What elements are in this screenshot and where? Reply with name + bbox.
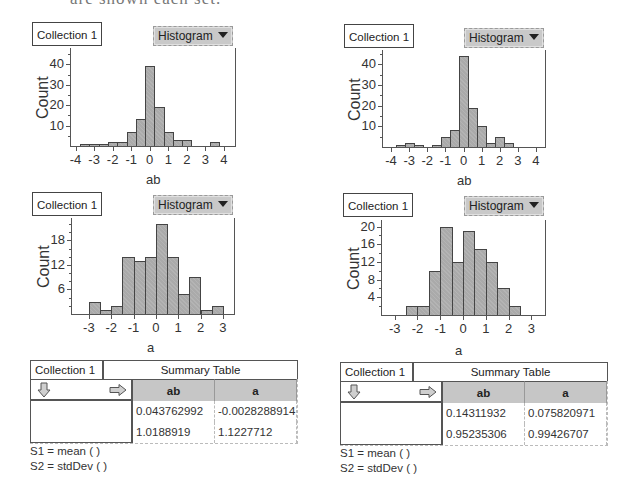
x-tick — [224, 147, 225, 151]
y-tick — [67, 265, 71, 266]
x-tick-label: 0 — [451, 321, 475, 336]
column-header-a[interactable]: a — [525, 381, 607, 403]
x-tick — [187, 147, 188, 151]
histogram-plot[interactable]: 61218-3-2-10123 — [71, 218, 234, 315]
summary-table: Collection 1 Summary Table ab a 0.143119… — [340, 362, 608, 476]
x-axis-title[interactable]: a — [455, 343, 462, 358]
x-tick — [111, 315, 112, 319]
y-tick — [377, 280, 381, 281]
x-tick — [417, 316, 418, 320]
y-tick — [379, 306, 381, 307]
x-tick — [223, 315, 224, 319]
attribute-drop-zone[interactable] — [30, 379, 133, 401]
triangle-down-icon — [529, 34, 539, 40]
x-tick — [531, 316, 532, 320]
y-tick — [68, 115, 70, 116]
x-tick — [463, 316, 464, 320]
y-tick — [380, 54, 382, 55]
histogram-plot[interactable]: 48121620-3-2-10123 — [381, 220, 545, 316]
x-tick — [486, 316, 487, 320]
x-tick — [445, 148, 446, 152]
y-tick — [377, 227, 381, 228]
histogram-plot[interactable]: 10203040-4-3-2-101234 — [70, 48, 235, 147]
y-tick-label: 4 — [351, 289, 375, 304]
column-header-ab[interactable]: ab — [443, 381, 525, 403]
plot-type-dropdown[interactable]: Histogram — [153, 26, 233, 46]
x-tick — [150, 147, 151, 151]
column-header-ab[interactable]: ab — [133, 379, 215, 401]
summary-grid: ab a 0.14311932 0.075820971 0.95235306 0… — [340, 381, 608, 446]
x-tick-label: 0 — [144, 320, 168, 335]
plot-type-label: Histogram — [469, 199, 524, 213]
y-tick — [380, 95, 382, 96]
x-tick — [440, 316, 441, 320]
mean-a-value: 0.075820971 — [525, 403, 607, 424]
x-tick — [536, 148, 537, 152]
x-tick — [168, 147, 169, 151]
formula-stddev[interactable]: S2 = stdDev ( ) — [30, 459, 298, 474]
plot-type-dropdown[interactable]: Histogram — [153, 195, 233, 215]
x-tick — [482, 148, 483, 152]
x-tick — [94, 147, 95, 151]
x-axis-title[interactable]: ab — [146, 172, 160, 187]
y-tick — [69, 232, 71, 233]
collection-label[interactable]: Collection 1 — [31, 361, 104, 379]
y-axis-line — [381, 220, 382, 316]
plot-type-dropdown[interactable]: Histogram — [464, 196, 544, 216]
x-tick — [509, 316, 510, 320]
formula-stddev[interactable]: S2 = stdDev ( ) — [340, 461, 608, 476]
x-tick — [201, 315, 202, 319]
y-tick — [67, 289, 71, 290]
x-tick-label: 2 — [189, 320, 213, 335]
collection-label[interactable]: Collection 1 — [343, 193, 413, 217]
down-arrow-icon[interactable] — [37, 382, 51, 398]
y-tick — [68, 95, 70, 96]
x-tick-label: -1 — [428, 321, 452, 336]
x-axis-title[interactable]: ab — [457, 173, 471, 188]
down-arrow-icon[interactable] — [347, 384, 361, 400]
y-axis-line — [382, 50, 383, 148]
x-tick — [178, 315, 179, 319]
formula-mean[interactable]: S1 = mean ( ) — [340, 446, 608, 461]
collection-label[interactable]: Collection 1 — [344, 24, 414, 48]
stddev-ab-value: 0.95235306 — [443, 424, 525, 445]
x-tick-label: 3 — [211, 320, 235, 335]
x-tick — [89, 315, 90, 319]
y-tick — [68, 75, 70, 76]
mean-ab-value: 0.14311932 — [443, 403, 525, 424]
collection-label[interactable]: Collection 1 — [32, 22, 102, 46]
collection-label[interactable]: Collection 1 — [32, 192, 102, 216]
plot-type-dropdown[interactable]: Histogram — [464, 28, 544, 48]
x-tick — [518, 148, 519, 152]
y-tick — [378, 126, 382, 127]
mean-ab-value: 0.043762992 — [133, 401, 215, 422]
collection-label[interactable]: Collection 1 — [341, 363, 414, 381]
x-axis-title[interactable]: a — [147, 340, 154, 355]
y-tick — [379, 288, 381, 289]
y-tick — [378, 106, 382, 107]
clipped-page-text: are shown each set. — [70, 0, 221, 9]
y-tick-label: 20 — [351, 219, 375, 234]
plot-right-border — [234, 218, 235, 315]
x-tick-label: 1 — [474, 321, 498, 336]
y-axis-title: Count — [35, 245, 53, 288]
stddev-ab-value: 1.0188919 — [133, 422, 215, 443]
y-tick — [378, 85, 382, 86]
formula-mean[interactable]: S1 = mean ( ) — [30, 444, 298, 459]
stddev-a-value: 1.1227712 — [215, 422, 297, 443]
x-tick-label: 4 — [524, 153, 548, 168]
attribute-drop-zone[interactable] — [340, 381, 443, 403]
right-arrow-icon[interactable] — [109, 384, 127, 396]
x-tick-label: -2 — [99, 320, 123, 335]
right-arrow-icon[interactable] — [419, 386, 437, 398]
x-tick — [427, 148, 428, 152]
histogram-plot[interactable]: 10203040-4-3-2-101234 — [382, 50, 545, 148]
y-tick — [66, 64, 70, 65]
column-header-a[interactable]: a — [215, 379, 297, 401]
summary-table-title: Summary Table — [104, 361, 297, 379]
stddev-a-value: 0.99426707 — [525, 424, 607, 445]
y-tick — [69, 224, 71, 225]
x-tick — [500, 148, 501, 152]
x-tick-label: -3 — [77, 320, 101, 335]
y-tick — [66, 126, 70, 127]
